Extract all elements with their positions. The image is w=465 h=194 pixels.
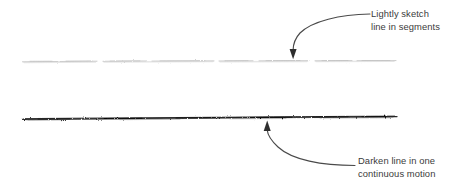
top-callout-arrow — [290, 14, 370, 59]
annotation-top-line-2: line in segments — [371, 21, 440, 34]
light-sketch-line — [23, 60, 397, 62]
darken-line-annotation: Darken line in one continuous motion — [358, 155, 435, 180]
dark-continuous-line — [23, 116, 398, 120]
bottom-callout-arrow — [264, 121, 355, 166]
annotation-bottom-line-1: Darken line in one — [358, 155, 435, 168]
top-arrowhead-icon — [290, 49, 297, 59]
annotation-top-line-1: Lightly sketch — [371, 8, 440, 21]
annotation-bottom-line-2: continuous motion — [358, 168, 435, 181]
bottom-arrowhead-icon — [264, 121, 271, 131]
lightly-sketch-annotation: Lightly sketch line in segments — [371, 8, 440, 33]
drawing-instruction-figure: Lightly sketch line in segments Darken l… — [0, 0, 465, 194]
